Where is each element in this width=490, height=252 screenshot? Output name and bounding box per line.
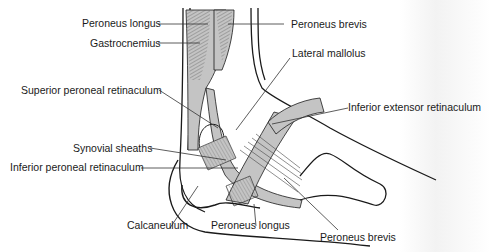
ankle-illustration [0, 0, 490, 252]
anatomy-diagram: Peroneus longus Peroneus brevis Gastrocn… [0, 0, 490, 252]
label-lateral-mallolus: Lateral mallolus [292, 47, 366, 59]
label-superior-peroneal-retinaculum: Superior peroneal retinaculum [21, 84, 162, 96]
label-calcaneulum: Calcaneulum [127, 219, 188, 231]
label-peroneus-brevis-top: Peroneus brevis [291, 18, 367, 30]
label-peroneus-longus-top: Peroneus longus [82, 17, 161, 29]
label-inferior-extensor-retinaculum: Inferior extensor retinaculum [348, 101, 481, 113]
label-gastrocnemius: Gastrocnemius [90, 37, 161, 49]
label-inferior-peroneal-retinaculum: Inferior peroneal retinaculum [10, 161, 144, 173]
inferior-extensor-branch [268, 98, 324, 134]
label-synovial-sheaths: Synovial sheaths [73, 142, 152, 154]
foot-outline [300, 153, 386, 205]
label-peroneus-longus-bottom: Peroneus longus [211, 219, 290, 231]
label-peroneus-brevis-bottom: Peroneus brevis [320, 231, 396, 243]
